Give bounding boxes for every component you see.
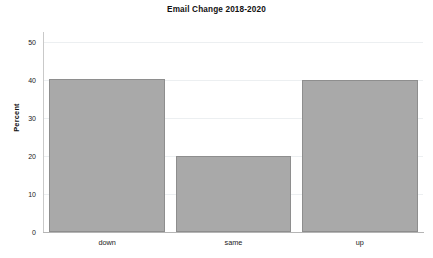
y-axis-tick-label: 30 xyxy=(10,114,36,121)
y-axis-tick-label: 40 xyxy=(10,76,36,83)
plot-area xyxy=(44,34,423,232)
x-axis-tick-label: same xyxy=(225,238,243,247)
y-axis-tick-label: 20 xyxy=(10,152,36,159)
gridline xyxy=(44,42,423,43)
bar-up xyxy=(302,80,418,232)
y-axis-tick-label: 50 xyxy=(10,38,36,45)
x-axis-tick-label: down xyxy=(98,238,115,247)
x-axis-tick-label: up xyxy=(356,238,364,247)
bar-same xyxy=(176,156,292,232)
x-axis-spine xyxy=(43,232,424,233)
y-axis-ticks: 01020304050 xyxy=(0,0,44,258)
chart-title: Email Change 2018-2020 xyxy=(0,5,433,14)
y-axis-tick-label: 0 xyxy=(10,229,36,236)
y-axis-tick-label: 10 xyxy=(10,190,36,197)
bar-chart-figure: Email Change 2018-2020 Percent 010203040… xyxy=(0,0,433,258)
bar-down xyxy=(49,79,165,232)
